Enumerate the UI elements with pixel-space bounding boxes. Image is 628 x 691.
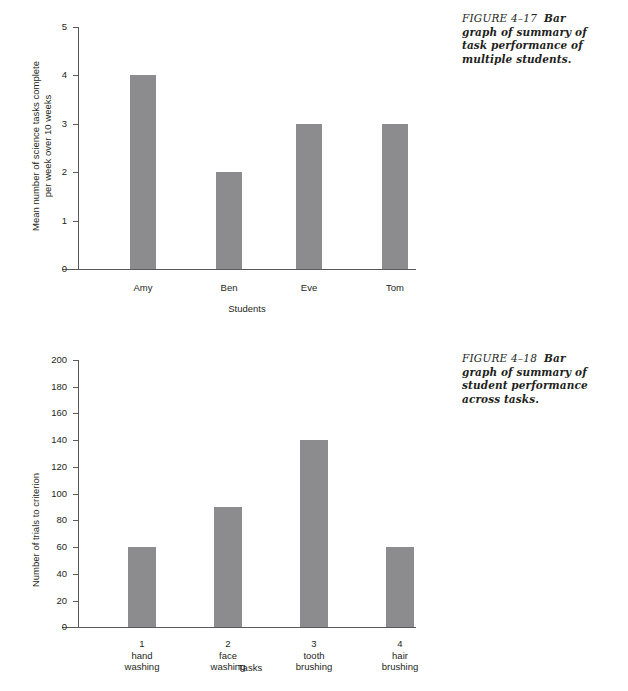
chart1-ytick-label-3: 3 bbox=[43, 119, 67, 129]
chart2-y-axis bbox=[78, 360, 79, 628]
figure-4-18-block: Number of trials to criterion 200 180 16… bbox=[0, 340, 430, 691]
chart1-ytick-3 bbox=[73, 124, 78, 125]
chart1-ytick-4 bbox=[73, 75, 78, 76]
chart2-bar-hand-washing bbox=[128, 547, 156, 627]
chart2-ytick-180 bbox=[73, 387, 78, 388]
chart2-ytick-80 bbox=[73, 520, 78, 521]
chart1-xtick-label-amy: Amy bbox=[113, 282, 173, 294]
chart2-ytick-100 bbox=[73, 494, 78, 495]
chart2-ytick-label-140: 140 bbox=[33, 435, 67, 445]
chart1-x-axis-title: Students bbox=[187, 303, 307, 314]
chart2-ytick-label-0: 0 bbox=[33, 622, 67, 632]
chart1-x-axis bbox=[62, 269, 416, 270]
chart2-ytick-label-20: 20 bbox=[33, 596, 67, 606]
chart1-ytick-1 bbox=[73, 221, 78, 222]
chart2-xtick-label-3-line2: tooth bbox=[303, 650, 324, 661]
chart1-bar-eve bbox=[296, 124, 322, 269]
chart2-bar-tooth-brushing bbox=[300, 440, 328, 627]
chart1-bar-amy bbox=[130, 75, 156, 269]
chart2-ytick-160 bbox=[73, 413, 78, 414]
figure-4-18-caption: FIGURE 4–18Bar graph of summary of stude… bbox=[462, 352, 594, 406]
chart1-ytick-label-4: 4 bbox=[43, 70, 67, 80]
chart2-xtick-label-4: 4 hair brushing bbox=[370, 638, 430, 673]
chart2-x-axis-title: Tasks bbox=[190, 662, 310, 673]
chart2-bar-face-washing bbox=[214, 507, 242, 627]
chart1-y-axis-title-line2: per week over 10 weeks bbox=[42, 22, 54, 270]
chart2-ytick-120 bbox=[73, 467, 78, 468]
chart1-ytick-label-5: 5 bbox=[43, 22, 67, 32]
chart1-y-axis-title-line1: Mean number of science tasks complete bbox=[30, 61, 41, 231]
chart2-xtick-label-1-line2: hand bbox=[131, 650, 152, 661]
chart2-ytick-200 bbox=[73, 360, 78, 361]
chart2-ytick-60 bbox=[73, 547, 78, 548]
figure-4-17-block: Mean number of science tasks complete pe… bbox=[0, 0, 430, 330]
chart1-xtick-label-tom: Tom bbox=[365, 282, 425, 294]
chart2-ytick-label-180: 180 bbox=[33, 382, 67, 392]
chart2-ytick-20 bbox=[73, 601, 78, 602]
chart1-xtick-label-ben: Ben bbox=[199, 282, 259, 294]
chart2-ytick-label-80: 80 bbox=[33, 515, 67, 525]
chart2-xtick-label-1-line1: 1 bbox=[139, 638, 144, 649]
chart2-xtick-label-2-line1: 2 bbox=[225, 638, 230, 649]
chart1-y-axis-title: Mean number of science tasks complete pe… bbox=[30, 22, 53, 270]
chart2-bar-hair-brushing bbox=[386, 547, 414, 627]
chart2-ytick-label-120: 120 bbox=[33, 462, 67, 472]
chart1-xtick-label-eve: Eve bbox=[279, 282, 339, 294]
figure-4-17-caption-label: FIGURE 4–17 bbox=[462, 12, 537, 24]
chart2-x-axis bbox=[62, 627, 416, 628]
chart2-xtick-label-3-line1: 3 bbox=[311, 638, 316, 649]
chart2-xtick-label-1-line3: washing bbox=[125, 661, 160, 672]
chart2-ytick-label-200: 200 bbox=[33, 355, 67, 365]
chart1-ytick-label-1: 1 bbox=[43, 216, 67, 226]
chart1-ytick-5 bbox=[73, 27, 78, 28]
chart-trials-to-criterion: Number of trials to criterion 200 180 16… bbox=[0, 340, 430, 691]
chart1-ytick-0 bbox=[73, 269, 78, 270]
chart2-ytick-label-40: 40 bbox=[33, 569, 67, 579]
chart2-xtick-label-4-line3: brushing bbox=[382, 661, 418, 672]
chart1-ytick-label-2: 2 bbox=[43, 167, 67, 177]
chart1-bar-tom bbox=[382, 124, 408, 269]
chart2-ytick-140 bbox=[73, 440, 78, 441]
chart2-ytick-0 bbox=[73, 627, 78, 628]
chart2-xtick-label-2-line2: face bbox=[219, 650, 237, 661]
chart1-y-axis bbox=[78, 27, 79, 270]
figure-4-17-caption: FIGURE 4–17Bar graph of summary of task … bbox=[462, 12, 594, 66]
chart1-ytick-label-0: 0 bbox=[43, 264, 67, 274]
figure-4-18-caption-label: FIGURE 4–18 bbox=[462, 352, 537, 364]
chart2-ytick-label-160: 160 bbox=[33, 408, 67, 418]
chart2-xtick-label-1: 1 hand washing bbox=[112, 638, 172, 673]
chart-task-performance: Mean number of science tasks complete pe… bbox=[0, 0, 430, 330]
chart2-xtick-label-4-line2: hair bbox=[392, 650, 408, 661]
chart2-ytick-label-60: 60 bbox=[33, 542, 67, 552]
chart1-bar-ben bbox=[216, 172, 242, 269]
chart2-xtick-label-4-line1: 4 bbox=[397, 638, 402, 649]
chart2-ytick-label-100: 100 bbox=[33, 489, 67, 499]
chart1-ytick-2 bbox=[73, 172, 78, 173]
chart2-ytick-40 bbox=[73, 574, 78, 575]
